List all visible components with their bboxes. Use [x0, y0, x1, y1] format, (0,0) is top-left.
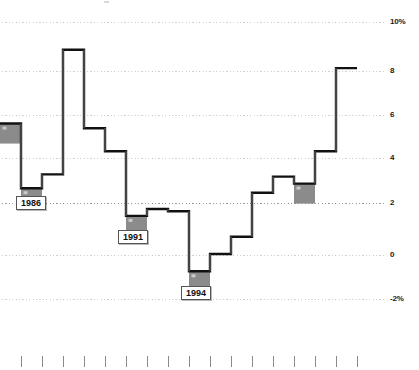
x-axis-tick [357, 356, 358, 367]
x-axis-tick [336, 356, 337, 367]
year-annotation-1991[interactable]: 1991 [118, 230, 148, 244]
x-axis-tick [126, 356, 127, 367]
year-annotation-1994[interactable]: 1994 [181, 286, 211, 300]
x-axis-tick [231, 356, 232, 367]
marker-glyph-icon [24, 191, 28, 194]
y-axis-tick-label: 10% [390, 18, 405, 26]
x-axis-tick [252, 356, 253, 367]
marker-glyph-icon [297, 187, 301, 190]
x-axis-tick [273, 356, 274, 367]
marker-glyph-icon [129, 219, 133, 222]
x-axis-tick [105, 356, 106, 367]
chart-plot-area [0, 0, 419, 370]
y-axis-tick-label: 4 [390, 154, 394, 162]
x-axis-tick [21, 356, 22, 367]
step-line-series [0, 50, 357, 272]
value-markers [0, 124, 315, 292]
x-axis-tick [294, 356, 295, 367]
x-axis-tick [63, 356, 64, 367]
x-axis-tick [42, 356, 43, 367]
x-axis-tick [84, 356, 85, 367]
y-axis-tick-label: 0 [390, 251, 394, 259]
x-axis-tick [168, 356, 169, 367]
y-axis-tick-label: 6 [390, 111, 394, 119]
x-axis-tick [147, 356, 148, 367]
step-risers [21, 50, 336, 272]
y-axis-tick-label: -2% [390, 295, 404, 303]
x-axis-tick [189, 356, 190, 367]
x-axis-tick [210, 356, 211, 367]
marker-glyph-icon [3, 127, 7, 130]
marker-glyph-icon [192, 274, 196, 277]
y-axis-tick-label: 2 [390, 199, 394, 207]
step-chart: 10%86420-2% 1986 1991 1994 [0, 0, 419, 370]
x-axis-tick [315, 356, 316, 367]
year-annotation-1986[interactable]: 1986 [16, 196, 46, 210]
y-axis-tick-label: 8 [390, 67, 394, 75]
gridlines [2, 23, 384, 300]
